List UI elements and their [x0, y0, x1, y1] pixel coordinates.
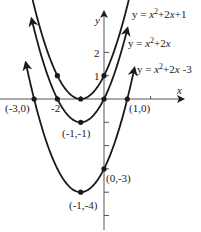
point-marker — [31, 96, 36, 101]
point-label-neg1-neg4: (-1,-4) — [69, 199, 98, 212]
point-label-neg3-0: (-3,0) — [5, 102, 30, 115]
point-label-1-0: (1,0) — [129, 102, 150, 115]
point-marker — [78, 120, 83, 125]
point-marker — [78, 96, 83, 101]
point-marker — [101, 73, 106, 78]
equation-label-c2: y = x2+2x — [128, 36, 171, 49]
parabola-c1 — [26, 0, 133, 99]
point-label-neg1-neg1: (-1,-1) — [62, 127, 91, 140]
parabola-graph: x y y = x2+2x+1 y = x2+2x y = x2+2x -3 (… — [0, 0, 201, 232]
point-label-0-neg3: (0,-3) — [106, 172, 131, 185]
point-marker — [78, 190, 83, 195]
curves — [26, 0, 134, 192]
point-marker — [55, 96, 60, 101]
y-tick-label-1: 1 — [94, 70, 100, 82]
y-axis-label: y — [94, 14, 100, 26]
point-marker — [55, 73, 60, 78]
point-marker — [125, 96, 130, 101]
equation-label-c1: y = x2+2x+1 — [132, 7, 186, 20]
parabola-c2 — [32, 20, 128, 123]
point-marker — [101, 96, 106, 101]
x-axis-label: x — [176, 84, 182, 96]
equation-label-c3: y = x2+2x -3 — [137, 62, 192, 75]
point-marker — [101, 166, 106, 171]
y-tick-label-2: 2 — [94, 47, 100, 59]
point-label-neg2: -2 — [51, 102, 60, 114]
